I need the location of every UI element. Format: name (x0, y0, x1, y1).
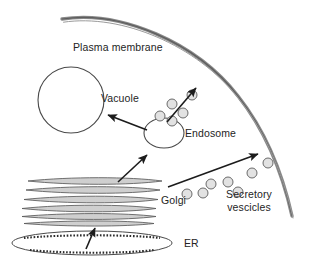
golgi-cisterna (28, 178, 162, 185)
label-plasma-membrane: Plasma membrane (73, 41, 163, 53)
label-vacuole: Vacuole (101, 92, 139, 104)
arrow-endosome-to-vacuole (108, 115, 147, 130)
label-er: ER (184, 237, 199, 249)
diagram-canvas: Plasma membrane Vacuole Endosome Golgi S… (0, 0, 312, 261)
secretory-vesicle (247, 168, 257, 178)
secretory-vesicle (263, 158, 273, 168)
golgi-cisterna (24, 221, 154, 226)
golgi-cisterna (22, 205, 156, 212)
cell-trafficking-diagram: Plasma membrane Vacuole Endosome Golgi S… (0, 0, 312, 261)
secretory-vesicle (223, 177, 233, 187)
endosome-vesicle (167, 99, 177, 109)
label-endosome: Endosome (185, 127, 236, 139)
secretory-vesicle (206, 179, 216, 189)
vacuole-shape (38, 67, 104, 133)
golgi-stack (22, 178, 162, 226)
endosome-vesicle (178, 108, 188, 118)
golgi-cisterna (24, 196, 158, 203)
label-secretory-line1: Secretory (226, 188, 272, 200)
label-secretory-line2: vescicles (227, 201, 271, 213)
golgi-cisterna (22, 214, 156, 220)
golgi-cisterna (26, 187, 160, 194)
secretory-vesicle (198, 188, 208, 198)
arrow-golgi-to-endosome (118, 155, 147, 182)
endosome-shape (144, 118, 184, 148)
endosome-vesicle (155, 111, 165, 121)
label-golgi: Golgi (161, 194, 186, 206)
ribosome-dots-lower (30, 250, 154, 253)
